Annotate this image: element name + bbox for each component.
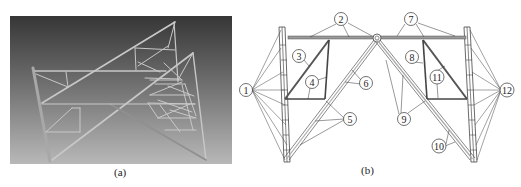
callout-label-3: 3 (297, 51, 302, 62)
callout-label-6: 6 (364, 78, 369, 89)
panel-b-line-drawing: 1 2 3 4 5 6 7 8 9 10 11 12 (b) (0, 0, 521, 187)
center-node (373, 34, 381, 42)
truss-structure (252, 23, 501, 162)
callout-label-10: 10 (434, 141, 444, 152)
callout-label-8: 8 (410, 52, 415, 63)
caption-b: (b) (361, 164, 374, 176)
callout-label-5: 5 (348, 114, 353, 125)
callout-label-11: 11 (432, 72, 442, 83)
callout-label-4: 4 (310, 77, 315, 88)
callout-label-9: 9 (402, 114, 407, 125)
callout-label-7: 7 (409, 14, 414, 25)
callout-label-1: 1 (244, 85, 249, 96)
diagram-b-graphic: 1 2 3 4 5 6 7 8 9 10 11 12 (0, 0, 521, 187)
callout-label-12: 12 (502, 85, 512, 96)
callout-label-2: 2 (339, 14, 344, 25)
